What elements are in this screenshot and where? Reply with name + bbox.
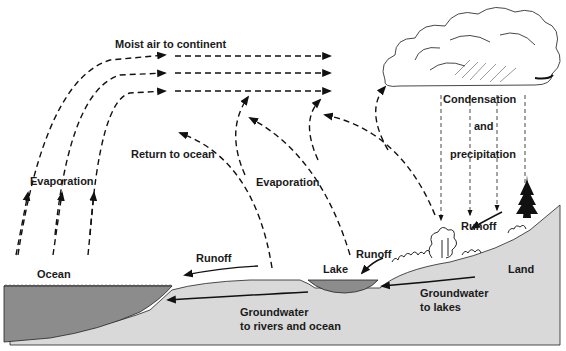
ocean-evaporation-arrow-1 (16, 193, 28, 255)
groundwater-lakes-label-2: to lakes (420, 301, 461, 313)
runoff-ocean-label: Runoff (196, 252, 232, 264)
groundwater-ocean-label-2: to rivers and ocean (240, 320, 341, 332)
runoff-ocean-arrow (185, 266, 258, 275)
runoff-lake-arrow (362, 258, 383, 273)
land-label: Land (508, 263, 534, 275)
return-arc-3 (325, 115, 435, 215)
moist-air-arrow-3 (90, 91, 165, 235)
runoff-lake-label: Runoff (356, 248, 392, 260)
tree-icon (516, 175, 538, 218)
lake-label: Lake (323, 263, 348, 275)
and-label: and (474, 120, 494, 132)
return-to-ocean-label: Return to ocean (131, 148, 215, 160)
ocean-evaporation-arrow-2 (53, 193, 62, 255)
cloud-icon (383, 7, 560, 86)
land-evaporation-arrow-2 (309, 100, 320, 160)
precipitation-label: precipitation (450, 148, 516, 160)
groundwater-ocean-label-1: Groundwater (240, 306, 309, 318)
condensation-label: Condensation (443, 93, 517, 105)
water-cycle-diagram: Moist air to continent Evaporation Retur… (0, 0, 566, 351)
moist-air-label: Moist air to continent (115, 38, 227, 50)
ocean-evaporation-arrow-3 (88, 193, 94, 255)
runoff-hill-label: Runoff (461, 220, 497, 232)
groundwater-lakes-label-1: Groundwater (420, 287, 489, 299)
diagram-canvas: Moist air to continent Evaporation Retur… (0, 0, 566, 351)
ocean-label: Ocean (37, 268, 71, 280)
land-evaporation-label: Evaporation (256, 176, 320, 188)
ocean-evaporation-label: Evaporation (30, 175, 94, 187)
land-evaporation-arrow-1 (236, 97, 248, 175)
